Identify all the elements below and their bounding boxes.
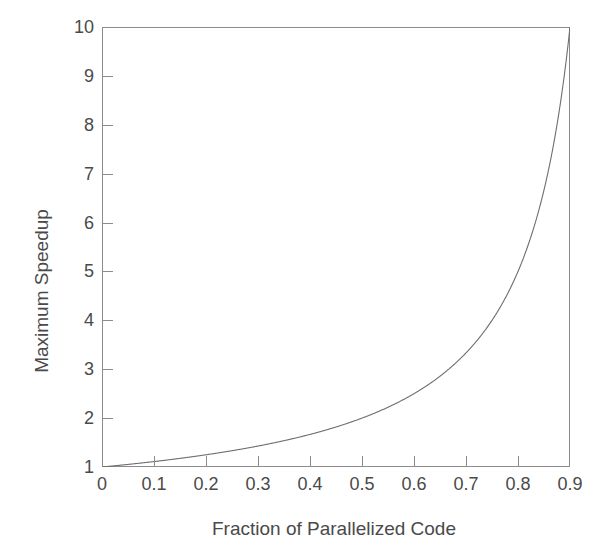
x-axis-tick xyxy=(362,456,363,467)
y-axis-tick xyxy=(102,271,113,272)
y-axis-tick xyxy=(102,320,113,321)
y-axis-tick xyxy=(102,223,113,224)
x-axis-tick xyxy=(258,456,259,467)
curve-line xyxy=(102,27,570,467)
x-axis-tick xyxy=(466,456,467,467)
y-axis-tick xyxy=(102,418,113,419)
x-axis-tick xyxy=(154,456,155,467)
x-axis-tick xyxy=(414,456,415,467)
y-axis-tick xyxy=(102,174,113,175)
plot-area xyxy=(102,27,570,467)
y-axis-tick xyxy=(102,125,113,126)
x-axis-title: Fraction of Parallelized Code xyxy=(0,518,606,540)
x-axis-tick-label: 0.9 xyxy=(538,475,602,493)
y-axis-tick xyxy=(102,76,113,77)
x-axis-tick xyxy=(206,456,207,467)
x-axis-tick xyxy=(310,456,311,467)
y-axis-tick xyxy=(102,369,113,370)
x-axis-title-text: Fraction of Parallelized Code xyxy=(212,518,456,540)
y-axis-title-text: Maximum Speedup xyxy=(22,209,62,373)
x-axis-tick xyxy=(518,456,519,467)
x-axis-tick-labels: 00.10.20.30.40.50.60.70.80.9 xyxy=(0,475,606,501)
speedup-curve xyxy=(102,27,570,467)
chart-figure: 12345678910 Maximum Speedup 00.10.20.30.… xyxy=(0,0,606,558)
